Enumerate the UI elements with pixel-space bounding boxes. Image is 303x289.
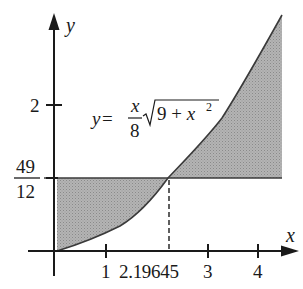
equation-radicand-x: x [187, 103, 195, 124]
equation-denominator: 8 [130, 121, 140, 140]
equation-lhs: y = [92, 109, 113, 128]
y-tick-label-49: 49 [16, 157, 35, 176]
x-tick-label-1: 1 [101, 262, 111, 281]
chart-canvas [0, 0, 303, 289]
equation-numerator: x [131, 96, 139, 115]
equation-radicand: 9 + x [157, 104, 195, 123]
y-tick-label-12: 12 [16, 182, 35, 201]
equation-exponent: 2 [206, 101, 212, 113]
shaded-region-left [57, 178, 168, 251]
x-tick-label-4: 4 [253, 262, 263, 281]
shaded-region-right [168, 15, 282, 178]
equation-y: y [92, 108, 100, 129]
y-tick-label-2: 2 [30, 96, 40, 115]
y-axis-arrow-icon [49, 13, 60, 30]
x-tick-label-3: 3 [203, 262, 213, 281]
y-axis-label: y [66, 15, 75, 35]
x-axis-arrow-icon [281, 246, 299, 257]
x-axis-label: x [286, 225, 295, 245]
x-tick-label-intersection: 2.19645 [119, 262, 179, 281]
